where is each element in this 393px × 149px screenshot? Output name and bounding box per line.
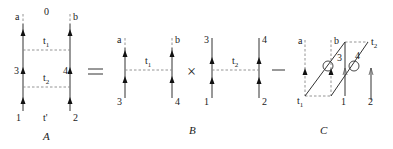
arrow-up-icon [170, 50, 175, 57]
label-0: 0 [44, 6, 49, 17]
diagonal-line-3 [305, 42, 345, 96]
feynman-diagram-equation: a 0 b t1 3 4 t2 1 t' 2 A a b t1 3 4 × [0, 0, 393, 149]
diagram-a: a 0 b t1 3 4 t2 1 t' 2 A [14, 6, 78, 142]
arrow-up-icon [303, 68, 308, 75]
arrow-up-icon [21, 29, 26, 36]
label-t2: t2 [43, 72, 50, 86]
equals-sign [88, 69, 103, 74]
arrow-up-icon [210, 77, 215, 84]
label-t1: t1 [145, 55, 152, 69]
label-2: 2 [368, 96, 373, 107]
arrow-up-icon [21, 67, 26, 74]
diagram-b-factor-2: 3 4 t2 1 2 [204, 34, 267, 107]
label-3: 3 [204, 34, 209, 45]
diagram-b-factor-1: a b t1 3 4 [117, 34, 180, 107]
label-b: b [73, 11, 78, 22]
arrow-up-icon [68, 97, 73, 104]
arrow-up-icon [257, 77, 262, 84]
label-t1: t1 [297, 95, 304, 109]
label-2: 2 [73, 112, 78, 123]
label-4: 4 [63, 65, 68, 76]
label-t2: t2 [232, 55, 239, 69]
caption-c: C [320, 124, 328, 136]
arrow-up-icon [329, 68, 334, 75]
arrow-up-icon [257, 57, 262, 64]
label-a: a [15, 11, 20, 22]
crossing-circle-icon [323, 61, 333, 71]
arrow-up-icon [210, 57, 215, 64]
label-b: b [175, 34, 180, 45]
label-3: 3 [14, 65, 19, 76]
times-sign: × [187, 63, 196, 80]
arrow-up-icon [68, 29, 73, 36]
arrow-up-icon [170, 76, 175, 83]
caption-a: A [42, 130, 50, 142]
label-b: b [334, 35, 339, 46]
arrow-up-icon [68, 67, 73, 74]
label-a: a [117, 34, 122, 45]
caption-b: B [189, 124, 196, 136]
label-3: 3 [117, 96, 122, 107]
diagram-c: a b t2 3 4 t1 1 2 [297, 35, 378, 109]
label-4: 4 [262, 34, 267, 45]
label-1: 1 [341, 96, 346, 107]
label-a: a [298, 35, 303, 46]
label-t1: t1 [43, 35, 50, 49]
label-t2: t2 [371, 36, 378, 50]
label-t-prime: t' [43, 112, 48, 123]
label-4: 4 [355, 50, 360, 61]
label-1: 1 [16, 112, 21, 123]
label-2: 2 [262, 96, 267, 107]
label-4: 4 [175, 96, 180, 107]
arrow-up-icon [21, 97, 26, 104]
arrow-up-icon [123, 50, 128, 57]
label-1: 1 [204, 96, 209, 107]
label-3: 3 [337, 52, 342, 63]
arrow-up-icon [123, 76, 128, 83]
